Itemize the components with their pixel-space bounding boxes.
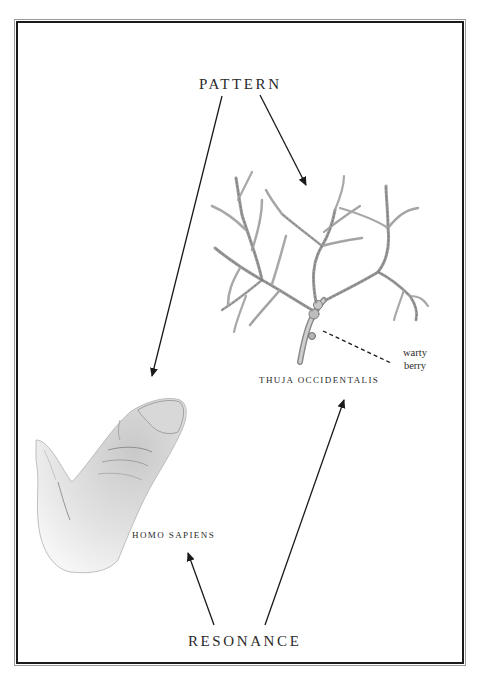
- arrow-resonance-to-human: [188, 553, 214, 625]
- thumb-illustration: [36, 399, 186, 573]
- warty-berry-callout-line2: berry: [403, 359, 427, 372]
- thuja-branch-illustration: [212, 172, 428, 362]
- homo-sapiens-label: HOMO SAPIENS: [132, 530, 215, 540]
- resonance-heading: RESONANCE: [188, 633, 301, 650]
- arrow-pattern-to-plant: [260, 95, 306, 185]
- arrow-resonance-to-plant: [265, 400, 344, 625]
- warty-berry-callout: warty berry: [403, 346, 427, 372]
- warty-berry-leader-line: [323, 331, 391, 363]
- diagram-artwork: [0, 0, 479, 685]
- arrow-pattern-to-human: [152, 96, 222, 376]
- warty-berry-callout-line1: warty: [403, 346, 427, 359]
- pattern-heading: PATTERN: [199, 76, 282, 93]
- thuja-occidentalis-label: THUJA OCCIDENTALIS: [259, 375, 379, 385]
